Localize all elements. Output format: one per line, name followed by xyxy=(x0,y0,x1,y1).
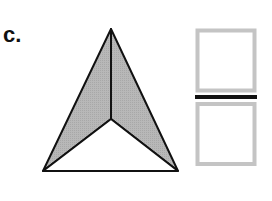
separator-bar xyxy=(195,95,257,99)
bottom-square xyxy=(198,104,255,164)
pyramid-diagram xyxy=(43,29,178,171)
top-square xyxy=(198,31,255,91)
figure-canvas xyxy=(0,0,272,201)
square-stack xyxy=(195,31,257,165)
